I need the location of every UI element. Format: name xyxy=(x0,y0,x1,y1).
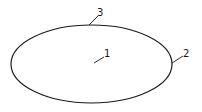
reference-label-2: 2 xyxy=(183,48,189,59)
leader-line-2 xyxy=(172,56,183,63)
ellipse-diagram: 3 2 1 xyxy=(0,0,202,112)
reference-label-3: 3 xyxy=(97,7,103,18)
leader-line-1 xyxy=(94,57,104,63)
ellipse-outline xyxy=(11,25,172,103)
reference-label-1: 1 xyxy=(104,48,110,59)
